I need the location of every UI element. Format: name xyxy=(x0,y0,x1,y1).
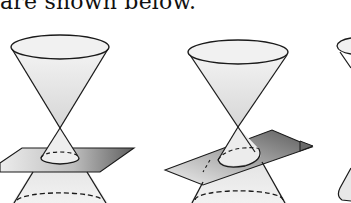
top-ellipse xyxy=(188,40,288,64)
conic-sections-illustration xyxy=(0,0,351,203)
top-ellipse xyxy=(11,35,109,59)
figure-2 xyxy=(165,40,312,203)
figure-1 xyxy=(0,35,134,203)
figure-3 xyxy=(300,38,351,201)
